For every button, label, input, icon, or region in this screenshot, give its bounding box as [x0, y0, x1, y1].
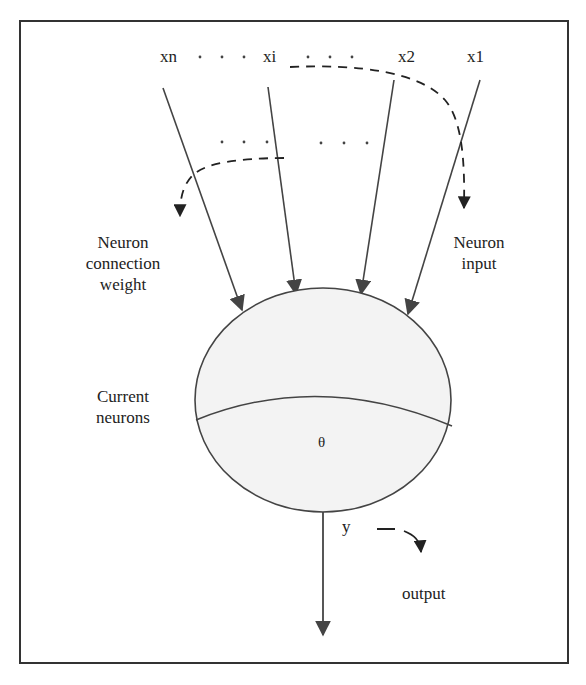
- neuron-label-line2: neurons: [90, 407, 156, 428]
- input-label-xn: xn: [160, 46, 177, 67]
- input-line-x1: [408, 80, 480, 314]
- input-label-x2: x2: [398, 46, 415, 67]
- weight-label-line2: connection: [80, 253, 166, 274]
- neuron-diagram: [0, 0, 586, 685]
- input-label-line1: Neuron: [450, 232, 508, 253]
- weight-callout-arrow: [180, 158, 284, 216]
- output-label: output: [402, 583, 445, 604]
- input-line-xi: [268, 87, 296, 294]
- weight-label-line3: weight: [80, 274, 166, 295]
- input-label: Neuron input: [450, 232, 508, 274]
- neuron-label-line1: Current: [90, 386, 156, 407]
- neuron-body: [195, 288, 451, 512]
- output-variable-label: y: [342, 516, 351, 537]
- input-label-xi: xi: [263, 46, 276, 67]
- input-line-x2: [361, 80, 394, 294]
- input-label-line2: input: [450, 253, 508, 274]
- input-label-x1: x1: [467, 46, 484, 67]
- output-callout-arrow: [377, 529, 421, 552]
- weight-ellipsis-dots: [221, 141, 369, 145]
- weight-label: Neuron connection weight: [80, 232, 166, 295]
- neuron-label: Current neurons: [90, 386, 156, 428]
- input-line-xn: [163, 88, 242, 310]
- weight-label-line1: Neuron: [80, 232, 166, 253]
- threshold-label: θ: [318, 432, 325, 453]
